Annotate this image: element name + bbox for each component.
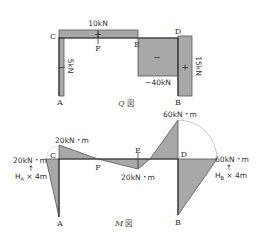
m-e-value: 20kN・m bbox=[121, 173, 155, 182]
q-beam-value: 10kN bbox=[88, 19, 108, 28]
m-beam-fe-region bbox=[98, 159, 150, 169]
bending-moment-diagram: 20kN・m 20kN・m ↑ HA × 4m C F E D A B 20kN… bbox=[13, 110, 249, 228]
q-column-ac-sign: − bbox=[58, 62, 66, 72]
node-a-label: A bbox=[56, 98, 63, 107]
m-beam-ed-region bbox=[150, 120, 178, 159]
node-d-label-m: D bbox=[181, 150, 187, 159]
m-d-note: HB × 4m bbox=[215, 171, 247, 181]
q-span-ed-sign: − bbox=[153, 52, 161, 62]
q-beam-sign: + bbox=[94, 29, 102, 39]
m-beam-cf-region bbox=[59, 145, 98, 159]
node-b-label-m: B bbox=[175, 218, 181, 227]
node-c-label-m: C bbox=[50, 151, 56, 160]
node-e-label: E bbox=[134, 40, 140, 49]
node-f-label: F bbox=[95, 44, 101, 53]
m-c-beam-value: 20kN・m bbox=[55, 136, 89, 145]
m-diagram-caption: M図 bbox=[114, 219, 132, 228]
m-column-ac-region bbox=[46, 159, 59, 217]
q-span-ed-value: −40kN bbox=[145, 78, 171, 87]
node-c-label: C bbox=[50, 32, 56, 41]
node-e-label-m: E bbox=[135, 146, 141, 155]
node-d-label: D bbox=[175, 27, 181, 36]
node-b-label: B bbox=[175, 98, 181, 107]
node-f-label-m: F bbox=[95, 163, 101, 172]
shear-force-diagram: 10kN + C F E D A B − 5kN − −40kN + 15kN … bbox=[50, 19, 203, 108]
q-column-ac-value: 5kN bbox=[66, 59, 75, 74]
m-frame-axis bbox=[59, 159, 178, 217]
m-c-note: HA × 4m bbox=[15, 172, 47, 182]
frame-diagrams: 10kN + C F E D A B − 5kN − −40kN + 15kN … bbox=[0, 0, 259, 247]
q-column-db-value: 15kN bbox=[194, 56, 203, 76]
q-diagram-caption: Q図 bbox=[118, 99, 134, 108]
m-d-beam-value: 60kN・m bbox=[163, 110, 197, 119]
m-column-db-region bbox=[178, 159, 217, 215]
q-column-db-sign: + bbox=[181, 62, 189, 72]
node-a-label-m: A bbox=[56, 219, 63, 228]
